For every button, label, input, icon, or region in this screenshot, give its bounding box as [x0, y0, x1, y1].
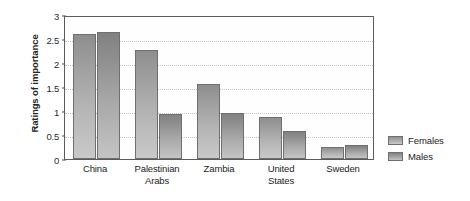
x-axis-label-line: States: [250, 175, 312, 187]
bar-group: [197, 17, 244, 159]
males-swatch-icon: [388, 152, 403, 161]
bar-females[interactable]: [73, 34, 96, 159]
y-tick-label: 1: [54, 107, 59, 118]
bar-series-layer: [65, 17, 373, 159]
x-axis-label-line: Arabs: [126, 175, 188, 187]
bar-group: [321, 17, 368, 159]
x-axis-label-line: Sweden: [312, 163, 374, 175]
x-axis-label-line: Palestinian: [126, 163, 188, 175]
x-axis-label: Zambia: [188, 163, 250, 175]
y-axis-tick-labels: 00.511.522.53: [36, 0, 62, 201]
y-tick-label: 0: [54, 155, 59, 166]
females-swatch-icon: [388, 136, 403, 145]
y-tick-label: 2.5: [46, 35, 59, 46]
bar-males[interactable]: [159, 114, 182, 159]
legend-item-males: Males: [388, 149, 468, 163]
legend-label-females: Females: [408, 135, 444, 146]
bar-males[interactable]: [345, 145, 368, 159]
x-axis-label: UnitedStates: [250, 163, 312, 186]
x-axis-label-line: United: [250, 163, 312, 175]
bar-group: [259, 17, 306, 159]
legend-label-males: Males: [408, 151, 433, 162]
y-tick-label: 0.5: [46, 131, 59, 142]
x-axis-label: PalestinianArabs: [126, 163, 188, 186]
x-axis-label-line: Zambia: [188, 163, 250, 175]
bar-females[interactable]: [321, 147, 344, 159]
bar-females[interactable]: [259, 117, 282, 159]
x-axis-category-labels: ChinaPalestinianArabsZambiaUnitedStatesS…: [64, 163, 374, 199]
bar-group: [73, 17, 120, 159]
y-tick-label: 2: [54, 59, 59, 70]
x-axis-label-line: China: [64, 163, 126, 175]
x-axis-label: China: [64, 163, 126, 175]
plot-area: [64, 16, 374, 160]
bar-males[interactable]: [97, 32, 120, 159]
bar-group: [135, 17, 182, 159]
y-tick-label: 3: [54, 11, 59, 22]
chart-legend: Females Males: [388, 133, 468, 165]
bar-females[interactable]: [135, 50, 158, 159]
bar-males[interactable]: [221, 113, 244, 159]
bar-males[interactable]: [283, 131, 306, 159]
bar-chart: Ratings of importance 00.511.522.53 Chin…: [0, 0, 470, 201]
x-axis-label: Sweden: [312, 163, 374, 175]
legend-item-females: Females: [388, 133, 468, 147]
bar-females[interactable]: [197, 84, 220, 159]
y-tick-label: 1.5: [46, 83, 59, 94]
